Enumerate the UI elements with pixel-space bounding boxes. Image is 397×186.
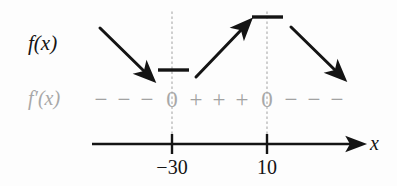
axis-label-x: x bbox=[370, 132, 379, 155]
sign-symbol: − bbox=[285, 88, 298, 111]
sign-symbol: + bbox=[236, 88, 249, 111]
sign-chart-figure: f(x) f′(x) − − − 0 + + + 0 − − − −30 10 … bbox=[0, 0, 397, 186]
sign-symbol: − bbox=[95, 88, 108, 111]
tick-label-minus30: −30 bbox=[156, 156, 187, 179]
sign-symbol: − bbox=[331, 88, 344, 111]
sign-symbol: − bbox=[308, 88, 321, 111]
sign-zero-minus30: 0 bbox=[166, 88, 178, 111]
tick-label-10: 10 bbox=[257, 156, 277, 179]
sign-symbol: − bbox=[141, 88, 154, 111]
sign-symbol: + bbox=[190, 88, 203, 111]
sign-symbol: − bbox=[118, 88, 131, 111]
sign-zero-10: 0 bbox=[261, 88, 273, 111]
sign-symbol: + bbox=[213, 88, 226, 111]
derivative-sign-row: − − − 0 + + + 0 − − − bbox=[0, 0, 397, 186]
